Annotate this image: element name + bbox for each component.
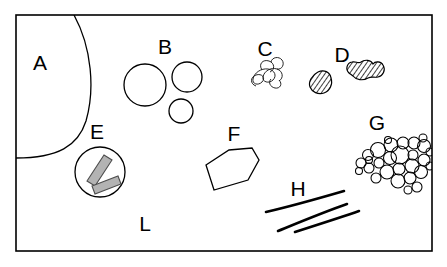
label-e: E <box>90 120 104 143</box>
diagram-svg: A B C D E F G H L <box>0 0 447 267</box>
figure-canvas: A B C D E F G H L <box>0 0 447 267</box>
label-g: G <box>369 111 385 134</box>
label-h: H <box>290 177 305 200</box>
label-f: F <box>228 122 241 145</box>
label-a: A <box>33 51 47 74</box>
label-c: C <box>257 37 272 60</box>
label-d: D <box>334 43 349 66</box>
label-b: B <box>158 35 172 58</box>
label-l: L <box>139 212 151 235</box>
